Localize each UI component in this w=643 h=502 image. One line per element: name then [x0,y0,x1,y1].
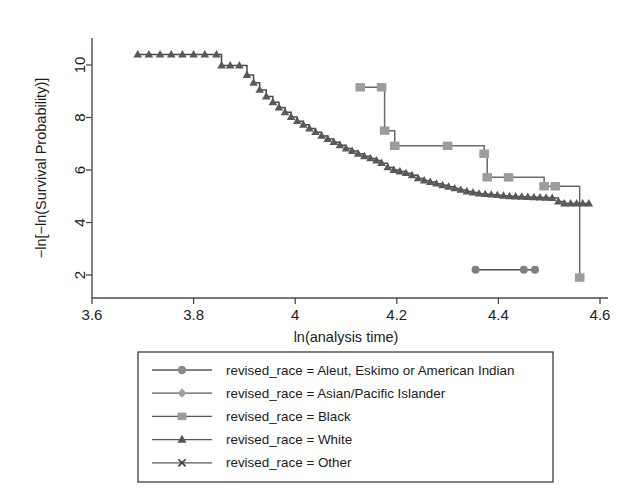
marker-square [390,142,400,150]
marker-square [539,182,549,190]
marker-square [355,83,365,91]
chart-legend[interactable]: revised_race = Aleut, Eskimo or American… [138,352,553,482]
y-axis-title: −ln[−ln(Survival Probability)] [33,78,49,259]
y-tick-label: 4 [71,218,88,226]
x-axis-title: ln(analysis time) [294,329,399,345]
y-tick-label: 6 [71,166,88,174]
marker-circle [531,266,539,274]
legend-label: revised_race = Aleut, Eskimo or American… [226,363,514,378]
marker-square [178,413,187,421]
marker-square [482,173,492,181]
marker-square [377,83,387,91]
marker-square [504,173,514,181]
x-tick-label: 3.6 [82,306,103,323]
marker-square [550,182,560,190]
y-tick-label: 10 [71,57,88,74]
legend-label: revised_race = Asian/Pacific Islander [226,386,446,401]
legend-label: revised_race = Black [226,409,351,424]
marker-circle [472,266,480,274]
marker-square [479,150,489,158]
x-tick-label: 4.2 [386,306,407,323]
x-tick-label: 4.4 [488,306,509,323]
y-tick-label: 2 [71,271,88,279]
y-tick-label: 8 [71,113,88,121]
marker-square [380,126,390,134]
marker-circle [520,266,528,274]
x-tick-label: 4.6 [590,306,611,323]
legend-label: revised_race = White [226,432,352,447]
marker-square [443,142,453,150]
marker-circle [178,366,186,374]
legend-item-4[interactable]: revised_race = Other [142,451,549,474]
marker-square [575,273,585,281]
x-tick-label: 4 [291,306,299,323]
x-tick-label: 3.8 [183,306,204,323]
legend-item-2[interactable]: revised_race = Black [142,405,549,428]
legend-item-3[interactable]: revised_race = White [142,428,549,451]
legend-item-1[interactable]: revised_race = Asian/Pacific Islander [142,382,549,405]
survival-plot-figure: 2468103.63.844.24.44.6 ln(analysis time)… [0,0,643,502]
legend-item-0[interactable]: revised_race = Aleut, Eskimo or American… [142,358,549,381]
legend-label: revised_race = Other [226,455,352,470]
